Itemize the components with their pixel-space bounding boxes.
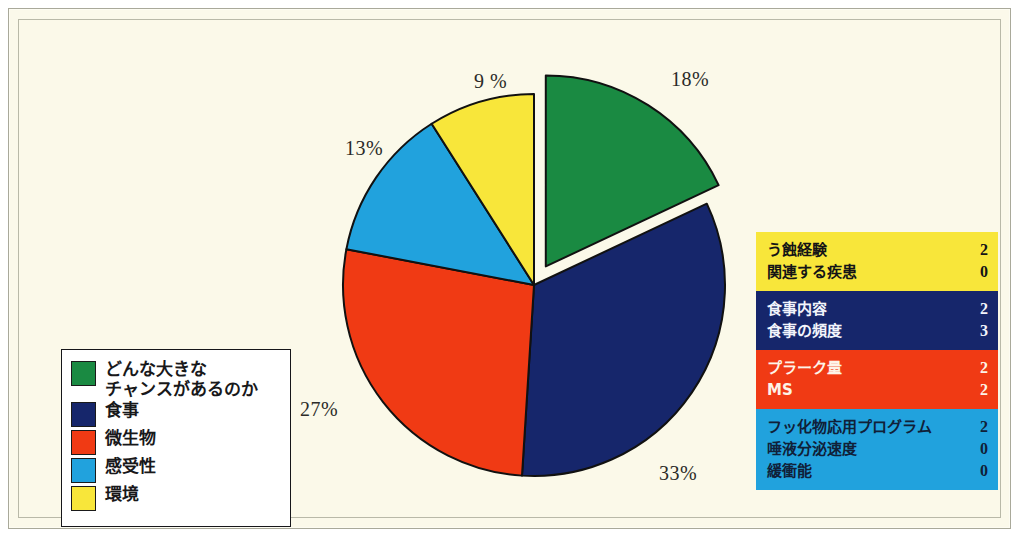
- legend-item-label-2: 食事: [105, 400, 139, 420]
- block-yellow: う蝕経験2関連する疾患0: [756, 232, 998, 291]
- pie-slice-3[interactable]: [343, 249, 534, 475]
- block-row: MS2: [767, 379, 988, 401]
- block-navy: 食事内容2食事の頻度3: [756, 291, 998, 350]
- legend-item-5[interactable]: 環境: [62, 484, 290, 511]
- block-row: 緩衝能0: [767, 460, 988, 482]
- pie-percent-label-2: 9 %: [474, 70, 507, 93]
- figure-inner-panel: 18%9 %13%27%33% どんな大きな チャンスがあるのか食事微生物感受性…: [18, 19, 1001, 518]
- pie-percent-label-1: 18%: [671, 68, 709, 91]
- block-row: 関連する疾患0: [767, 261, 988, 283]
- pie-percent-label-4: 27%: [300, 398, 338, 421]
- legend-item-label-3: 微生物: [105, 428, 156, 448]
- block-row-label: フッ化物応用プログラム: [767, 417, 932, 438]
- block-row: フッ化物応用プログラム2: [767, 416, 988, 438]
- block-row-value: 2: [970, 416, 988, 437]
- block-row: プラーク量2: [767, 357, 988, 379]
- block-blue: フッ化物応用プログラム2唾液分泌速度0緩衝能0: [756, 409, 998, 490]
- block-row-label: プラーク量: [767, 358, 842, 379]
- legend-item-label-5: 環境: [105, 484, 139, 504]
- block-row: う蝕経験2: [767, 239, 988, 261]
- block-row: 唾液分泌速度0: [767, 438, 988, 460]
- block-row-value: 0: [970, 261, 988, 282]
- risk-factor-blocks: う蝕経験2関連する疾患0食事内容2食事の頻度3プラーク量2MS2フッ化物応用プロ…: [756, 232, 998, 490]
- block-row-value: 2: [970, 357, 988, 378]
- block-row-label: 食事内容: [767, 299, 827, 320]
- legend-swatch-blue: [71, 458, 96, 483]
- legend-swatch-yellow: [71, 486, 96, 511]
- block-row-value: 3: [970, 320, 988, 341]
- block-row-value: 2: [970, 298, 988, 319]
- legend-item-2[interactable]: 食事: [62, 400, 290, 427]
- block-row-value: 2: [970, 379, 988, 400]
- chart-legend: どんな大きな チャンスがあるのか食事微生物感受性環境: [61, 349, 291, 527]
- pie-percent-label-5: 33%: [659, 462, 697, 485]
- block-row: 食事内容2: [767, 298, 988, 320]
- block-row-label: MS: [767, 380, 793, 401]
- block-row-value: 0: [970, 438, 988, 459]
- legend-swatch-green: [71, 361, 96, 386]
- block-row-label: 関連する疾患: [767, 262, 857, 283]
- block-row-label: 唾液分泌速度: [767, 439, 857, 460]
- block-row-value: 2: [970, 239, 988, 260]
- block-row-label: 食事の頻度: [767, 321, 842, 342]
- block-row-label: 緩衝能: [767, 461, 812, 482]
- legend-item-4[interactable]: 感受性: [62, 456, 290, 483]
- block-row: 食事の頻度3: [767, 320, 988, 342]
- legend-item-label-4: 感受性: [105, 456, 156, 476]
- legend-swatch-red: [71, 430, 96, 455]
- block-row-label: う蝕経験: [767, 240, 827, 261]
- legend-item-3[interactable]: 微生物: [62, 428, 290, 455]
- block-row-value: 0: [970, 460, 988, 481]
- legend-swatch-navy: [71, 402, 96, 427]
- legend-item-1[interactable]: どんな大きな チャンスがあるのか: [62, 359, 290, 399]
- legend-item-label-1: どんな大きな チャンスがあるのか: [105, 359, 258, 399]
- block-red: プラーク量2MS2: [756, 350, 998, 409]
- pie-percent-label-3: 13%: [345, 137, 383, 160]
- figure-frame: 18%9 %13%27%33% どんな大きな チャンスがあるのか食事微生物感受性…: [8, 8, 1011, 529]
